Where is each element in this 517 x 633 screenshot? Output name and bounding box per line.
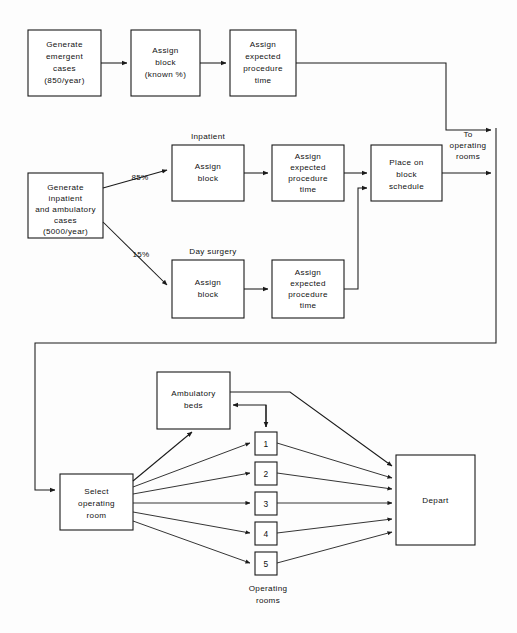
emergent-assigntime-line1: Assign (250, 40, 276, 49)
place-on-block-line2: block (396, 170, 417, 179)
node-operating-room-3[interactable]: 3 (255, 492, 277, 515)
edge-selectroom-to-ambulatorybeds (133, 432, 192, 481)
node-inpatient-assign-expected-time[interactable]: Assign expected procedure time (272, 145, 344, 201)
edge-or1-to-ambulatorybeds (233, 405, 266, 427)
node-operating-room-4[interactable]: 4 (255, 522, 277, 545)
generate-scheduled-line5: (5000/year) (43, 227, 88, 236)
inpatient-assigntime-line3: procedure (288, 174, 328, 183)
generate-scheduled-line1: Generate (47, 183, 84, 192)
generate-emergent-line2: emergent (46, 52, 83, 61)
operating-room-3-label: 3 (263, 499, 268, 509)
node-operating-room-5[interactable]: 5 (255, 552, 277, 575)
edge-ambulatorybeds-to-depart (230, 392, 392, 466)
operating-room-5-label: 5 (263, 559, 268, 569)
operating-rooms-caption: Operating rooms (249, 584, 288, 605)
node-daysurgery-assign-expected-time[interactable]: Assign expected procedure time (272, 260, 344, 318)
node-inpatient-assign-block[interactable]: Assign block (172, 145, 244, 201)
edge-emergent-to-or-trunk (296, 63, 491, 130)
operating-room-2-label: 2 (263, 469, 268, 479)
daysurgery-assigntime-line2: expected (290, 279, 326, 288)
inpatient-assignblock-line1: Assign (195, 162, 221, 171)
scheduled-case-row: Generate inpatient and ambulatory cases … (28, 130, 491, 318)
generate-emergent-line1: Generate (46, 40, 83, 49)
to-operating-rooms-line1: To (463, 130, 472, 139)
place-on-block-line3: schedule (389, 182, 424, 191)
to-operating-rooms-line3: rooms (456, 152, 480, 161)
branch-percent-inpatient: 85% (131, 173, 148, 182)
ambulatory-beds-line1: Ambulatory (171, 389, 216, 398)
daysurgery-assigntime-line1: Assign (295, 268, 321, 277)
emergent-assignblock-line2: block (155, 58, 176, 67)
operating-room-4-label: 4 (263, 529, 268, 539)
edge-selectroom-to-or5 (133, 521, 250, 563)
generate-scheduled-line2: inpatient (49, 194, 83, 203)
node-emergent-assign-block[interactable]: Assign block (known %) (131, 30, 200, 96)
generate-emergent-line4: (850/year) (44, 76, 84, 85)
flowchart-canvas: Generate emergent cases (850/year) Assig… (0, 0, 517, 633)
node-emergent-assign-expected-time[interactable]: Assign expected procedure time (230, 30, 296, 96)
inpatient-assigntime-line1: Assign (295, 152, 321, 161)
node-depart[interactable]: Depart (396, 455, 475, 545)
daysurgery-assigntime-line3: procedure (288, 290, 328, 299)
generate-scheduled-line4: cases (54, 216, 77, 225)
to-operating-rooms-label: To operating rooms (450, 130, 487, 161)
node-operating-room-2[interactable]: 2 (255, 462, 277, 485)
inpatient-assigntime-line2: expected (290, 163, 326, 172)
daysurgery-assignblock-line1: Assign (195, 278, 221, 287)
node-operating-room-1[interactable]: 1 (255, 432, 277, 455)
inpatient-group-label: Inpatient (191, 132, 226, 141)
operating-room-boxes: 1 2 3 4 5 (255, 432, 277, 575)
edge-or5-to-depart (277, 532, 392, 563)
depart-label: Depart (422, 496, 449, 505)
branch-percent-daysurgery: 15% (132, 250, 149, 259)
emergent-assignblock-line3: (known %) (145, 70, 186, 79)
node-place-on-block-schedule[interactable]: Place on block schedule (371, 145, 442, 201)
operating-room-1-label: 1 (263, 439, 268, 449)
node-generate-scheduled-cases[interactable]: Generate inpatient and ambulatory cases … (28, 173, 103, 238)
select-room-line1: Select (84, 487, 109, 496)
node-generate-emergent-cases[interactable]: Generate emergent cases (850/year) (28, 30, 101, 96)
operating-rooms-caption-line1: Operating (249, 584, 288, 593)
operating-room-row: Select operating room Ambulatory beds 1 (60, 372, 475, 605)
inpatient-assignblock-line2: block (198, 174, 219, 183)
edge-selectroom-to-or2 (133, 473, 250, 494)
select-room-line3: room (87, 511, 107, 520)
generate-emergent-line3: cases (53, 64, 76, 73)
edge-or2-to-depart (277, 473, 392, 489)
generate-scheduled-line3: and ambulatory (35, 205, 96, 214)
emergent-assigntime-line4: time (255, 76, 272, 85)
emergent-assigntime-line2: expected (245, 52, 281, 61)
edge-or1-to-depart (277, 443, 392, 478)
emergent-assignblock-line1: Assign (152, 46, 178, 55)
emergent-assigntime-line3: procedure (243, 64, 283, 73)
daysurgery-assigntime-line4: time (300, 301, 317, 310)
place-on-block-line1: Place on (389, 158, 423, 167)
operating-rooms-caption-line2: rooms (256, 596, 280, 605)
edge-daysurgery-time-to-blockschedule (344, 188, 367, 289)
ambulatory-beds-line2: beds (184, 401, 203, 410)
edge-or4-to-depart (277, 519, 392, 533)
inpatient-assigntime-line4: time (300, 185, 317, 194)
to-operating-rooms-line2: operating (450, 141, 487, 150)
node-ambulatory-beds[interactable]: Ambulatory beds (157, 372, 230, 429)
daysurgery-group-label: Day surgery (189, 247, 237, 256)
node-daysurgery-assign-block[interactable]: Assign block (172, 260, 244, 318)
daysurgery-assignblock-line2: block (198, 290, 219, 299)
select-room-line2: operating (78, 499, 115, 508)
edge-selectroom-to-or4 (133, 512, 250, 533)
node-select-operating-room[interactable]: Select operating room (60, 474, 133, 530)
emergent-case-row: Generate emergent cases (850/year) Assig… (28, 30, 491, 130)
edge-selectroom-to-or1 (133, 443, 250, 487)
surgical-flow-diagram: Generate emergent cases (850/year) Assig… (0, 0, 517, 633)
